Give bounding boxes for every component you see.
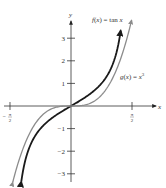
x-tick-label: −π2	[3, 112, 12, 123]
y-tick-label: 3	[62, 35, 66, 43]
y-tick-label: 1	[62, 80, 66, 88]
y-axis-label: y	[68, 11, 73, 19]
x-tick-numerator: π	[9, 112, 12, 117]
y-tick-label: −3	[58, 170, 66, 178]
chart: x y 321−1−2−3−π2π2 f(x) = tan xg(x) = x3	[0, 0, 166, 188]
x-axis-label: x	[157, 103, 162, 111]
x-tick-sign: −	[3, 113, 7, 119]
y-tick-label: 2	[62, 57, 66, 65]
y-tick-label: −1	[58, 125, 66, 133]
curves	[13, 20, 132, 182]
x-tick-numerator: π	[131, 112, 134, 117]
axes: x y	[4, 11, 162, 182]
x-tick-denominator: 2	[9, 118, 12, 123]
label-g-cube: g(x) = x3	[120, 72, 145, 81]
x-tick-denominator: 2	[131, 118, 134, 123]
x-tick-label: π2	[130, 112, 134, 123]
label-f-tan: f(x) = tan x	[92, 16, 124, 24]
series-line-cube	[13, 20, 132, 182]
y-tick-label: −2	[58, 148, 66, 156]
series-labels: f(x) = tan xg(x) = x3	[92, 16, 145, 81]
